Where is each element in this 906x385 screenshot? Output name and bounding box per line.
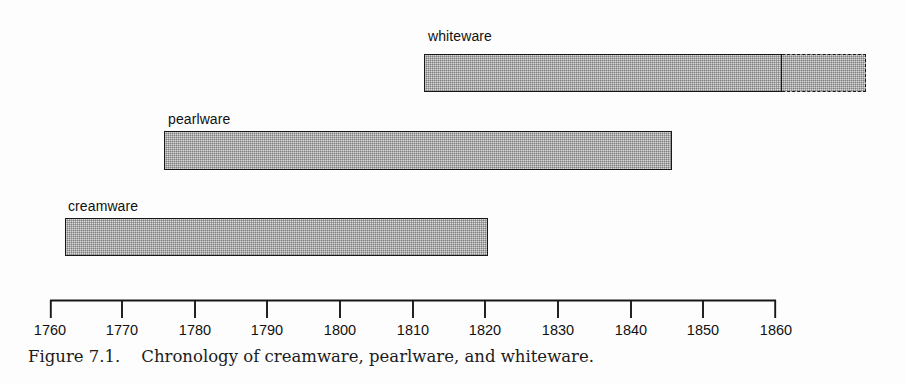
bar-label-pearlware: pearlware (168, 111, 230, 127)
bar-pearlware (164, 131, 672, 170)
bar-label-creamware: creamware (68, 198, 138, 214)
bar-whiteware-solid (424, 54, 782, 92)
bar-whiteware-dashed-extension (782, 54, 866, 92)
axis-tick-label-1780: 1780 (179, 322, 211, 338)
axis-tick-label-1840: 1840 (615, 322, 647, 338)
axis-tick-label-1810: 1810 (397, 322, 429, 338)
figure-chronology-chart: whiteware pearlware creamware 1 (0, 0, 906, 385)
axis-tick-label-1850: 1850 (687, 322, 719, 338)
figure-caption: Figure 7.1. Chronology of creamware, pea… (28, 347, 594, 367)
axis-tick-label-1770: 1770 (106, 322, 138, 338)
axis-tick-label-1830: 1830 (542, 322, 574, 338)
axis-tick-label-1820: 1820 (469, 322, 501, 338)
axis-tick-label-1760: 1760 (34, 322, 66, 338)
bar-label-whiteware: whiteware (428, 28, 492, 44)
axis-tick-label-1790: 1790 (251, 322, 283, 338)
axis-tick-label-1800: 1800 (324, 322, 356, 338)
axis-tick-label-1860: 1860 (760, 322, 792, 338)
bar-creamware (65, 218, 488, 256)
